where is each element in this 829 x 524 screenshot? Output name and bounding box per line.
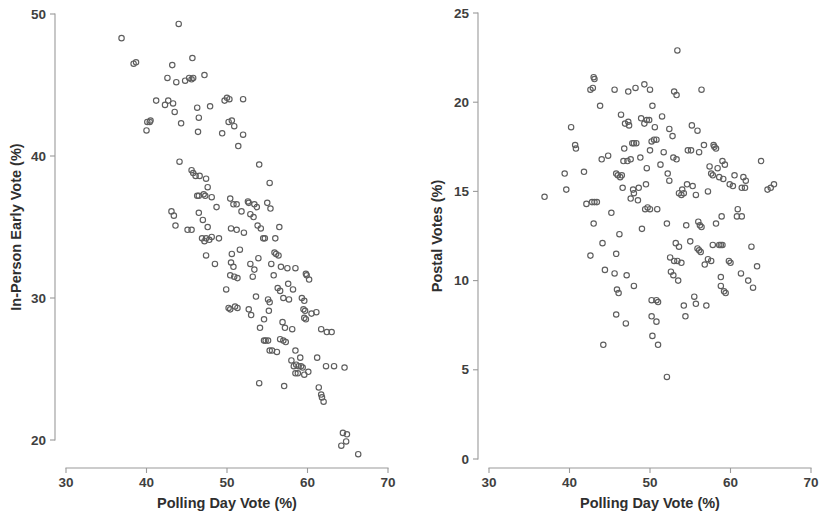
- right-data-points: [542, 48, 777, 380]
- data-point: [207, 104, 212, 109]
- panel-postal-votes: 05101520253040506070 Polling Day Vote (%…: [410, 0, 825, 524]
- data-point: [200, 217, 205, 222]
- data-point: [626, 89, 631, 94]
- data-point: [269, 261, 274, 266]
- data-point: [223, 287, 228, 292]
- data-point: [564, 187, 569, 192]
- data-point: [293, 348, 298, 353]
- data-point: [588, 253, 593, 258]
- data-point: [719, 214, 724, 219]
- data-point: [273, 236, 278, 241]
- y-tick-label: 50: [31, 7, 46, 22]
- data-point: [738, 271, 743, 276]
- data-point: [658, 162, 663, 167]
- data-point: [240, 132, 245, 137]
- y-tick-label: 20: [31, 433, 46, 448]
- data-point: [690, 183, 695, 188]
- data-point: [617, 232, 622, 237]
- left-axes: [55, 14, 388, 468]
- data-point: [265, 200, 270, 205]
- data-point: [190, 55, 195, 60]
- panel-in-person-early-vote: 203040503040506070 Polling Day Vote (%) …: [0, 0, 415, 524]
- data-point: [170, 101, 175, 106]
- data-point: [257, 162, 262, 167]
- data-point: [609, 210, 614, 215]
- data-point: [228, 196, 233, 201]
- data-point: [600, 240, 605, 245]
- data-point: [278, 264, 283, 269]
- data-point: [618, 112, 623, 117]
- data-point: [165, 75, 170, 80]
- data-point: [231, 264, 236, 269]
- data-point: [282, 325, 287, 330]
- data-point: [631, 190, 636, 195]
- data-point: [623, 321, 628, 326]
- data-point: [196, 115, 201, 120]
- data-point: [241, 230, 246, 235]
- data-point: [285, 265, 290, 270]
- data-point: [638, 155, 643, 160]
- data-point: [331, 363, 336, 368]
- data-point: [673, 240, 678, 245]
- data-point: [702, 262, 707, 267]
- data-point: [735, 207, 740, 212]
- data-point: [250, 274, 255, 279]
- x-tick-label: 60: [300, 475, 315, 490]
- data-point: [228, 226, 233, 231]
- scatter-figure: 203040503040506070 Polling Day Vote (%) …: [0, 0, 829, 524]
- data-point: [170, 62, 175, 67]
- data-point: [620, 185, 625, 190]
- data-point: [664, 374, 669, 379]
- data-point: [144, 128, 149, 133]
- data-point: [688, 239, 693, 244]
- data-point: [612, 271, 617, 276]
- data-point: [286, 297, 291, 302]
- data-point: [613, 312, 618, 317]
- data-point: [642, 82, 647, 87]
- x-axis-label: Polling Day Vote (%): [580, 495, 720, 511]
- data-point: [613, 251, 618, 256]
- data-point: [693, 192, 698, 197]
- data-point: [216, 236, 221, 241]
- data-point: [581, 169, 586, 174]
- y-tick-label: 25: [454, 6, 470, 21]
- data-point: [256, 256, 261, 261]
- x-tick-label: 50: [219, 475, 234, 490]
- data-point: [628, 196, 633, 201]
- data-point: [701, 142, 706, 147]
- data-point: [182, 78, 187, 83]
- data-point: [681, 303, 686, 308]
- y-tick-label: 40: [31, 149, 46, 164]
- data-point: [289, 358, 294, 363]
- x-tick-label: 40: [562, 475, 577, 490]
- data-point: [695, 128, 700, 133]
- data-point: [234, 227, 239, 232]
- y-tick-label: 30: [31, 291, 46, 306]
- data-point: [209, 194, 214, 199]
- data-point: [562, 171, 567, 176]
- data-point: [323, 363, 328, 368]
- data-point: [568, 124, 573, 129]
- data-point: [267, 180, 272, 185]
- data-point: [202, 72, 207, 77]
- data-point: [306, 277, 311, 282]
- data-point: [631, 283, 636, 288]
- right-tick-labels: 05101520253040506070: [454, 6, 819, 490]
- data-point: [246, 307, 251, 312]
- data-point: [715, 166, 720, 171]
- data-point: [647, 148, 652, 153]
- data-point: [591, 221, 596, 226]
- data-point: [195, 105, 200, 110]
- y-tick-label: 5: [461, 362, 469, 377]
- data-point: [237, 247, 242, 252]
- right-ticks: [473, 13, 811, 473]
- data-point: [655, 342, 660, 347]
- data-point: [172, 109, 177, 114]
- data-point: [203, 176, 208, 181]
- left-data-points: [119, 21, 361, 457]
- data-point: [171, 213, 176, 218]
- data-point: [162, 102, 167, 107]
- data-point: [281, 383, 286, 388]
- x-tick-label: 50: [642, 475, 657, 490]
- data-point: [749, 244, 754, 249]
